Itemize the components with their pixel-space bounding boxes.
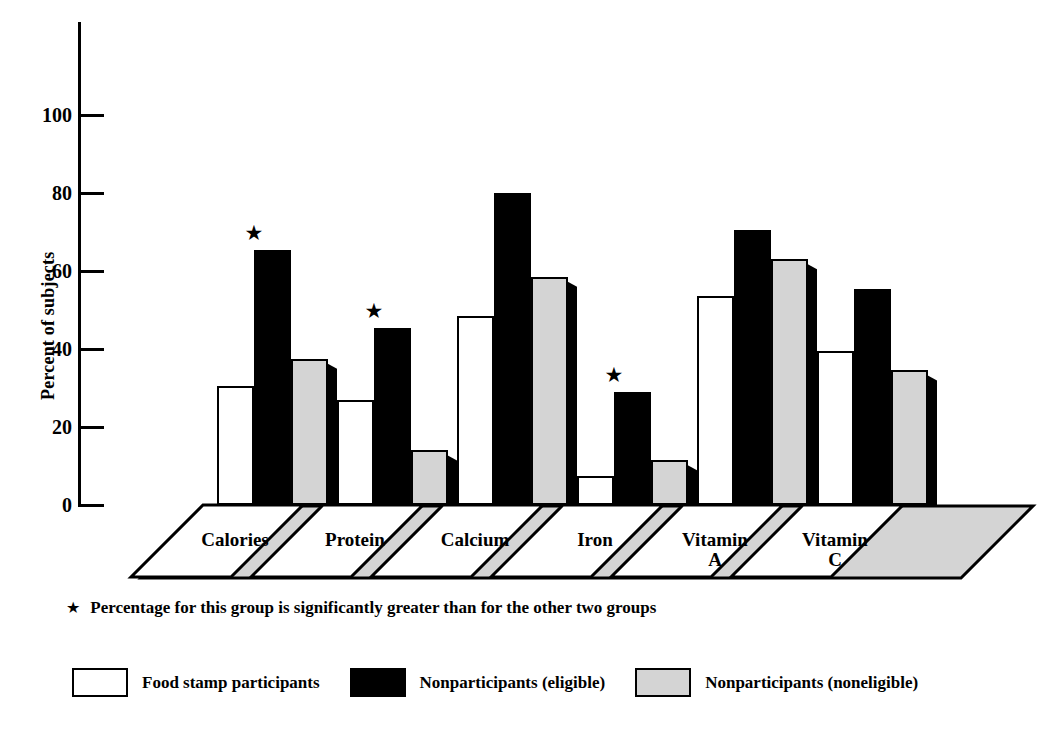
footnote-text: Percentage for this group is significant… [90,598,656,617]
legend-swatch-gray [635,668,691,697]
significance-star-icon: ★ [362,301,386,322]
bar-calcium-series-1[interactable] [494,193,531,505]
bar-vitamin-a-series-2[interactable] [771,259,808,505]
bar-vitamin-c-series-2[interactable] [891,370,928,505]
category-label-calcium: Calcium [415,530,535,550]
category-label-calories: Calories [175,530,295,550]
legend-label-2: Nonparticipants (noneligible) [705,673,918,693]
bar-protein-series-0[interactable] [337,400,374,505]
legend-label-0: Food stamp participants [142,673,320,693]
chart-figure: Percent of subjects 0 20 40 60 80 100 ★C… [0,0,1051,740]
legend-item-2[interactable]: Nonparticipants (noneligible) [635,668,918,697]
legend-swatch-black [350,668,406,697]
bar-vitamin-a-series-1[interactable] [734,230,771,505]
chart-legend: Food stamp participants Nonparticipants … [72,668,918,697]
bar-calcium-series-0[interactable] [457,316,494,505]
bar-iron-series-2[interactable] [651,460,688,505]
legend-item-1[interactable]: Nonparticipants (eligible) [350,668,606,697]
bar-vitamin-c-series-0[interactable] [817,351,854,505]
bar-iron-series-0[interactable] [577,476,614,505]
category-label-vitamin-c: VitaminC [775,530,895,570]
legend-swatch-white [72,668,128,697]
bar-protein-series-2[interactable] [411,450,448,505]
bar-calories-series-0[interactable] [217,386,254,505]
bar-calories-series-2[interactable] [291,359,328,505]
footnote: ★Percentage for this group is significan… [66,598,656,618]
bar-protein-series-1[interactable] [374,328,411,505]
bar-iron-series-1[interactable] [614,392,651,505]
bar-calories-series-1[interactable] [254,250,291,505]
significance-star-icon: ★ [602,365,626,386]
legend-label-1: Nonparticipants (eligible) [420,673,606,693]
bar-vitamin-a-series-0[interactable] [697,296,734,505]
bar-calcium-series-2[interactable] [531,277,568,505]
star-icon: ★ [66,598,80,617]
bar-vitamin-c-series-1[interactable] [854,289,891,505]
category-label-protein: Protein [295,530,415,550]
category-label-iron: Iron [535,530,655,550]
significance-star-icon: ★ [242,223,266,244]
category-label-vitamin-a: VitaminA [655,530,775,570]
legend-item-0[interactable]: Food stamp participants [72,668,320,697]
